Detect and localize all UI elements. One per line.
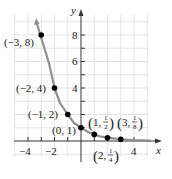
svg-text:1: 1 bbox=[109, 147, 113, 155]
svg-text:2: 2 bbox=[104, 123, 108, 131]
svg-text:1: 1 bbox=[104, 114, 108, 122]
point-label: (−2, 4) bbox=[16, 82, 46, 95]
y-axis bbox=[79, 9, 86, 162]
svg-text:4: 4 bbox=[109, 156, 113, 164]
point-label: (−1, 2) bbox=[28, 108, 58, 121]
point-label: (0, 1) bbox=[52, 124, 76, 137]
data-point bbox=[38, 32, 44, 38]
y-tick-label: 6 bbox=[72, 55, 78, 67]
svg-text:3,: 3, bbox=[122, 116, 131, 128]
data-point bbox=[118, 137, 124, 143]
point-label: (−3, 8) bbox=[4, 36, 34, 49]
point-label-1-half: ( 1, 1 2 ) bbox=[88, 114, 114, 132]
svg-text:8: 8 bbox=[133, 123, 137, 131]
data-point bbox=[105, 135, 111, 141]
x-axis-arrow-icon bbox=[155, 139, 162, 144]
y-axis-arrow-icon bbox=[79, 9, 84, 16]
svg-text:): ) bbox=[138, 115, 143, 132]
data-point bbox=[91, 132, 97, 138]
data-point bbox=[65, 112, 71, 118]
svg-text:1: 1 bbox=[133, 114, 137, 122]
svg-text:): ) bbox=[114, 148, 119, 165]
x-tick-label: −4 bbox=[19, 145, 31, 157]
svg-text:2,: 2, bbox=[98, 149, 107, 161]
y-axis-label: y bbox=[70, 4, 76, 16]
y-tick-label: 4 bbox=[72, 82, 78, 94]
data-point bbox=[78, 125, 84, 131]
exponential-chart: y x −4 −2 4 4 6 8 (−3, 8) (−2, 4) (−1, 2… bbox=[0, 0, 172, 179]
point-label-2-quarter: ( 2, 1 4 ) bbox=[93, 147, 119, 165]
point-label-3-eighth: ( 3, 1 8 ) bbox=[117, 114, 143, 132]
svg-text:1,: 1, bbox=[93, 116, 102, 128]
x-tick-label: 4 bbox=[131, 145, 137, 157]
data-point bbox=[52, 85, 58, 91]
y-tick-label: 8 bbox=[72, 29, 78, 41]
x-axis-label: x bbox=[155, 144, 161, 156]
svg-text:): ) bbox=[109, 115, 114, 132]
x-tick-label: −2 bbox=[45, 145, 57, 157]
